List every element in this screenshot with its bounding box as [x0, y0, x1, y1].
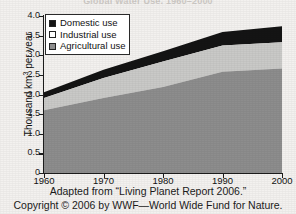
y-tick-mark — [39, 36, 44, 37]
legend-label-agricultural: Agricultural use — [60, 41, 125, 51]
y-tick-mark — [39, 114, 44, 115]
y-tick-mark — [39, 16, 44, 17]
y-tick-mark — [39, 134, 44, 135]
legend-item-agricultural: Agricultural use — [49, 41, 125, 52]
legend-item-industrial: Industrial use — [49, 29, 125, 40]
x-tick-mark — [223, 174, 224, 178]
source-caption: Adapted from “Living Planet Report 2006.… — [0, 185, 296, 197]
legend-label-industrial: Industrial use — [60, 30, 117, 40]
y-tick-mark — [39, 153, 44, 154]
legend: Domestic use Industrial use Agricultural… — [45, 14, 130, 55]
legend-swatch-agricultural — [49, 43, 56, 50]
copyright-caption: Copyright © 2006 by WWF—World Wide Fund … — [0, 199, 296, 211]
page-title: Global Water Use, 1960–2000 — [0, 0, 296, 4]
y-tick-mark — [39, 75, 44, 76]
y-axis-label-main: Thousand km — [23, 76, 34, 137]
chart-figure: Global Water Use, 1960–2000 4.03.53.02.5… — [0, 0, 296, 214]
legend-label-domestic: Domestic use — [60, 18, 118, 28]
legend-item-domestic: Domestic use — [49, 18, 125, 29]
y-axis-label-exponent: 3 — [22, 72, 29, 76]
x-tick-mark — [163, 174, 164, 178]
legend-swatch-domestic — [49, 20, 56, 27]
legend-swatch-industrial — [49, 31, 56, 38]
y-axis-label-tail: per year — [23, 32, 34, 71]
y-tick-mark — [39, 55, 44, 56]
y-tick-mark — [39, 95, 44, 96]
y-axis-label: Thousand km3 per year — [22, 9, 34, 159]
x-tick-mark — [44, 174, 45, 178]
x-tick-mark — [104, 174, 105, 178]
x-tick-label: 2000 — [265, 176, 296, 186]
x-tick-mark — [282, 174, 283, 178]
